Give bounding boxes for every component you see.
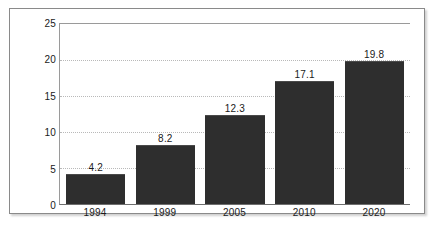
bar-series: 4.28.212.317.119.8	[60, 24, 410, 204]
x-axis-tick-label: 2005	[200, 207, 270, 223]
bar-value-label: 19.8	[364, 49, 384, 60]
y-axis-tick-label: 10	[30, 127, 56, 138]
y-axis-tick-label: 15	[30, 90, 56, 101]
y-axis-tick-labels: 0510152025	[20, 23, 56, 205]
bar-slot: 8.2	[131, 24, 201, 204]
y-axis-tick-label: 5	[30, 163, 56, 174]
y-axis-tick-label: 25	[30, 18, 56, 29]
bar-value-label: 4.2	[89, 162, 104, 173]
x-axis-tick-labels: 19941999200520102020	[59, 207, 410, 223]
bar-slot: 17.1	[270, 24, 340, 204]
x-axis-tick-label: 2010	[269, 207, 339, 223]
bar-value-label: 17.1	[294, 69, 314, 80]
chart-plot-wrapper: 0510152025 4.28.212.317.119.8 1994199920…	[10, 9, 424, 213]
bar-value-label: 8.2	[158, 133, 173, 144]
y-axis-tick-label: 0	[30, 200, 56, 211]
y-axis-tick-label: 20	[30, 54, 56, 65]
bar[interactable]: 17.1	[275, 81, 334, 204]
bar[interactable]: 19.8	[345, 61, 404, 204]
bar[interactable]: 8.2	[136, 145, 195, 204]
x-axis-tick-label: 2020	[339, 207, 409, 223]
x-axis-tick-label: 1994	[60, 207, 130, 223]
x-axis-tick-label: 1999	[130, 207, 200, 223]
bar[interactable]: 12.3	[205, 115, 264, 204]
bar-slot: 12.3	[200, 24, 270, 204]
bar-slot: 19.8	[339, 24, 409, 204]
bar-value-label: 12.3	[225, 103, 245, 114]
bar-slot: 4.2	[61, 24, 131, 204]
chart-frame: 0510152025 4.28.212.317.119.8 1994199920…	[9, 8, 425, 214]
bar[interactable]: 4.2	[66, 174, 125, 204]
plot-area: 4.28.212.317.119.8	[59, 23, 410, 205]
